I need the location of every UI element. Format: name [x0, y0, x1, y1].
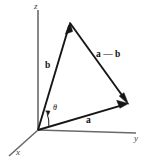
- angle-theta-arc: [47, 113, 49, 126]
- vector-diagram-figure: z y x b a a — b θ: [0, 0, 149, 161]
- vector-diagram-canvas: [0, 0, 149, 161]
- vector-a-label: a: [86, 116, 91, 126]
- vector-b-label: b: [45, 61, 50, 71]
- angle-theta-label: θ: [53, 104, 57, 112]
- angle-arc-group: [46, 111, 50, 127]
- x-axis-line: [9, 130, 38, 156]
- vector-a-minus-b-label: a — b: [96, 50, 120, 60]
- vector-a-shaft: [38, 105, 123, 130]
- axes-group: [9, 10, 136, 156]
- vector-a-group: [38, 100, 129, 130]
- z-axis-label: z: [34, 2, 38, 11]
- vector-a-minus-b-shaft: [70, 23, 124, 98]
- y-axis-line: [38, 130, 136, 133]
- y-axis-label: y: [134, 134, 138, 143]
- vector-b-group: [38, 22, 73, 130]
- vector-a-minus-b-group: [70, 23, 129, 104]
- x-axis-label: x: [16, 148, 20, 157]
- vector-b-shaft: [38, 26, 69, 131]
- angle-theta-arrowhead: [46, 111, 50, 115]
